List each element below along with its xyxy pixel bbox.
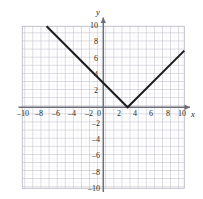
y-tick-label-8: 8	[94, 38, 98, 46]
x-axis-label: x	[191, 110, 195, 119]
y-tick-label-10: 10	[90, 22, 98, 30]
x-tick-label--10: –10	[17, 110, 29, 118]
x-tick-label-6: 6	[149, 110, 153, 118]
y-tick-label--10: –10	[88, 185, 100, 193]
y-tick-label-6: 6	[94, 55, 98, 63]
y-tick-label--6: –6	[92, 152, 100, 160]
x-tick-label-4: 4	[133, 110, 137, 118]
y-tick-label--8: –8	[92, 169, 100, 177]
x-tick-label--2: –2	[85, 110, 93, 118]
y-tick-label-2: 2	[94, 87, 98, 95]
x-tick-label-10: 10	[178, 110, 186, 118]
y-tick-label--4: –4	[92, 136, 100, 144]
coordinate-plane-svg	[0, 0, 203, 199]
x-tick-label--4: –4	[68, 110, 76, 118]
x-tick-label--8: –8	[35, 110, 43, 118]
x-tick-label--6: –6	[52, 110, 60, 118]
y-tick-label--2: –2	[92, 120, 100, 128]
x-tick-label-8: 8	[166, 110, 170, 118]
y-axis-label: y	[96, 8, 100, 17]
x-tick-label-0: 0	[97, 110, 101, 118]
y-tick-label-4: 4	[94, 71, 98, 79]
graph-figure: –10 –8 –6 –4 –2 0 2 4 6 8 10 10 8 6 4 2 …	[0, 0, 203, 199]
x-tick-label-2: 2	[117, 110, 121, 118]
